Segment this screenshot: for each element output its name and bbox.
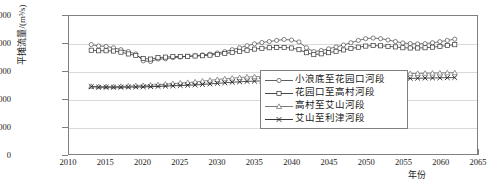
x-tick-label: 2035 bbox=[234, 157, 274, 167]
legend-label: 高村至艾山河段 bbox=[294, 99, 365, 112]
series-marker bbox=[453, 37, 457, 41]
series-marker bbox=[275, 38, 279, 42]
legend-label: 小浪底至花园口河段 bbox=[294, 73, 385, 86]
series-marker bbox=[393, 45, 397, 49]
series-marker bbox=[297, 48, 301, 52]
series-marker bbox=[341, 43, 345, 47]
series-marker bbox=[245, 48, 249, 52]
series-marker bbox=[111, 49, 115, 53]
x-tick-label: 2050 bbox=[346, 157, 386, 167]
series-marker bbox=[371, 36, 375, 40]
series-marker bbox=[171, 55, 175, 59]
x-tick-label: 2010 bbox=[48, 157, 88, 167]
series-marker bbox=[349, 46, 353, 50]
x-tick-label: 2060 bbox=[421, 157, 461, 167]
x-tick-label: 2055 bbox=[383, 157, 423, 167]
chart-figure: 平摊流量/(m³/s) 年份 0200040006000800010000 20… bbox=[0, 0, 493, 187]
series-marker bbox=[163, 55, 167, 59]
series-marker bbox=[178, 55, 182, 59]
series-marker bbox=[423, 42, 427, 46]
series-marker bbox=[193, 54, 197, 58]
series-marker bbox=[126, 52, 130, 56]
series-marker bbox=[416, 46, 420, 50]
series-marker bbox=[282, 37, 286, 41]
legend-label: 艾山至利津河段 bbox=[294, 112, 365, 125]
series-marker bbox=[430, 41, 434, 45]
series-marker bbox=[378, 37, 382, 41]
series-marker bbox=[341, 48, 345, 52]
y-tick-label: 8000 bbox=[0, 38, 11, 48]
series-marker bbox=[230, 50, 234, 54]
series-marker bbox=[401, 41, 405, 45]
series-marker bbox=[208, 53, 212, 57]
series-marker bbox=[334, 45, 338, 49]
series-marker bbox=[149, 57, 153, 61]
series-marker bbox=[97, 49, 101, 53]
series-marker bbox=[364, 37, 368, 41]
series-marker bbox=[89, 42, 93, 46]
legend-marker-cross-icon bbox=[264, 112, 294, 125]
x-tick-label: 2040 bbox=[272, 157, 312, 167]
series-marker bbox=[156, 56, 160, 60]
series-line bbox=[91, 45, 454, 59]
series-marker bbox=[200, 54, 204, 58]
legend-item: 小浪底至花园口河段 bbox=[264, 73, 404, 86]
x-tick-label: 2045 bbox=[309, 157, 349, 167]
series-marker bbox=[327, 51, 331, 55]
legend-marker-circle-icon bbox=[264, 73, 294, 86]
y-tick-label: 0 bbox=[0, 150, 11, 160]
series-marker bbox=[238, 49, 242, 53]
series-marker bbox=[260, 40, 264, 44]
series-marker bbox=[416, 42, 420, 46]
series-marker bbox=[282, 45, 286, 49]
series-marker bbox=[334, 49, 338, 53]
y-tick-label: 4000 bbox=[0, 94, 11, 104]
series-marker bbox=[393, 39, 397, 43]
x-tick-mark bbox=[478, 149, 479, 155]
series-marker bbox=[104, 44, 108, 48]
series-marker bbox=[378, 44, 382, 48]
series-marker bbox=[349, 41, 353, 45]
series-marker bbox=[438, 44, 442, 48]
series-marker bbox=[356, 45, 360, 49]
series-marker bbox=[223, 51, 227, 55]
series-marker bbox=[134, 53, 138, 57]
series-marker bbox=[371, 43, 375, 47]
legend-item: 艾山至利津河段 bbox=[264, 112, 404, 125]
series-marker bbox=[423, 46, 427, 50]
series-marker bbox=[186, 54, 190, 58]
series-marker bbox=[245, 44, 249, 48]
series-marker bbox=[408, 42, 412, 46]
series-marker bbox=[119, 50, 123, 54]
series-marker bbox=[275, 45, 279, 49]
series-marker bbox=[430, 45, 434, 49]
series-marker bbox=[289, 46, 293, 50]
series-2 bbox=[89, 43, 457, 61]
series-marker bbox=[267, 46, 271, 50]
y-axis-title: 平摊流量/(m³/s) bbox=[15, 0, 28, 90]
series-marker bbox=[252, 42, 256, 46]
series-marker bbox=[386, 38, 390, 42]
y-tick-label: 10000 bbox=[0, 10, 11, 20]
series-marker bbox=[356, 38, 360, 42]
series-marker bbox=[445, 38, 449, 42]
legend-item: 高村至艾山河段 bbox=[264, 99, 404, 112]
x-tick-label: 2015 bbox=[85, 157, 125, 167]
series-marker bbox=[252, 47, 256, 51]
series-marker bbox=[215, 52, 219, 56]
series-marker bbox=[453, 43, 457, 47]
x-tick-label: 2025 bbox=[160, 157, 200, 167]
series-marker bbox=[364, 44, 368, 48]
series-marker bbox=[104, 49, 108, 53]
series-marker bbox=[141, 56, 145, 60]
series-marker bbox=[319, 52, 323, 56]
series-marker bbox=[408, 46, 412, 50]
y-tick-label: 6000 bbox=[0, 66, 11, 76]
series-marker bbox=[289, 38, 293, 42]
series-marker bbox=[386, 44, 390, 48]
series-marker bbox=[304, 51, 308, 55]
series-line bbox=[91, 38, 454, 61]
series-marker bbox=[438, 40, 442, 44]
series-marker bbox=[297, 40, 301, 44]
legend-label: 花园口至高村河段 bbox=[294, 86, 375, 99]
